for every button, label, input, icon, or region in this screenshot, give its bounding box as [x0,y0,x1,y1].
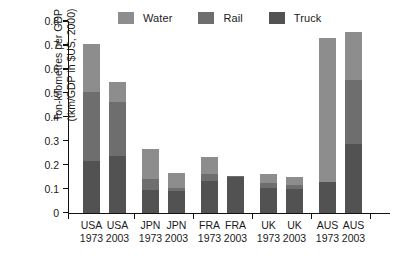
x-label-country: UK [278,219,312,232]
bar-usa-1973 [83,44,100,213]
y-tick-label-2: 0.2 [44,159,59,171]
bar-segment-truck [286,189,303,212]
y-axis-title: Ton-kilometres per GDP (tkm/GDP in $US, … [52,0,78,150]
bar-usa-2003 [109,82,126,213]
bar-segment-rail [142,179,159,190]
bar-segment-water [83,44,100,92]
x-label-country: AUS [337,219,371,232]
x-label-year: 2003 [219,232,253,245]
plot-area: 00.10.20.30.40.50.60.70.8 [68,21,390,214]
y-tick-label-0: 0 [53,207,59,219]
bar-segment-water [260,174,277,183]
bar-uk-1973 [260,174,277,213]
x-label-year: 2003 [337,232,371,245]
x-label-country: FRA [219,219,253,232]
x-label-year: 2003 [101,232,135,245]
bar-segment-water [345,32,362,79]
bar-aus-2003 [345,32,362,212]
bar-aus-1973 [319,38,336,212]
x-label-uk-2003: UK2003 [278,219,312,245]
bar-segment-truck [109,156,126,212]
bar-fra-1973 [201,157,218,213]
x-label-country: JPN [160,219,194,232]
bar-segment-water [109,82,126,102]
x-label-country: USA [101,219,135,232]
bar-segment-water [168,173,185,188]
y-tick-2: 0.2 [63,164,68,165]
bar-segment-truck [201,181,218,212]
bar-jpn-2003 [168,173,185,212]
bar-segment-rail [109,102,126,156]
bar-segment-truck [260,188,277,213]
bar-segment-water [286,177,303,185]
bar-jpn-1973 [142,149,159,212]
y-axis-title-line-2: (tkm/GDP in $US, 2000) [65,0,78,150]
bar-segment-truck [345,144,362,212]
x-label-jpn-2003: JPN2003 [160,219,194,245]
y-tick-1: 0.1 [63,188,68,189]
bar-segment-truck [227,177,244,212]
bar-segment-rail [345,80,362,145]
bar-segment-truck [83,161,100,212]
x-axis-line [68,213,390,214]
bar-segment-rail [83,92,100,161]
y-axis-title-line-1: Ton-kilometres per GDP [52,0,65,150]
x-label-fra-2003: FRA2003 [219,219,253,245]
bar-segment-truck [168,191,185,213]
x-label-aus-2003: AUS2003 [337,219,371,245]
bar-segment-water [319,38,336,182]
bar-segment-water [142,149,159,178]
bar-segment-truck [142,190,159,213]
y-tick-label-1: 0.1 [44,183,59,195]
bar-segment-rail [201,174,218,182]
bar-fra-2003 [227,176,244,213]
bar-segment-truck [319,182,336,213]
x-label-year: 2003 [160,232,194,245]
chart-container: Water Rail Truck 00.10.20.30.40.50.60.70… [0,0,410,270]
x-label-usa-2003: USA2003 [101,219,135,245]
bar-segment-water [201,157,218,174]
x-label-year: 2003 [278,232,312,245]
bar-uk-2003 [286,177,303,212]
x-axis-labels: USA1973USA2003JPN1973JPN2003FRA1973FRA20… [68,219,390,259]
